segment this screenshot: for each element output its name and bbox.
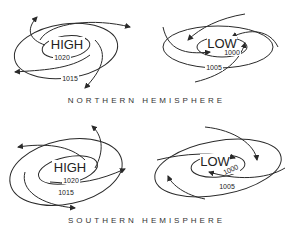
southern-low-wind-arrow: [168, 176, 205, 199]
southern-high-wind-arrow: [18, 145, 85, 160]
southern-high-isobar-label-1020: 1020: [63, 177, 79, 184]
northern-high-system: HIGH 1020 1015: [11, 17, 130, 88]
northern-low-isobar-label-1005: 1005: [206, 64, 222, 71]
southern-hemisphere-caption: SOUTHERN HEMISPHERE: [0, 216, 293, 225]
pressure-systems-diagram: HIGH 1020 1015 LOW 1000 1005 HIGH 1020: [0, 0, 293, 233]
southern-high-label: HIGH: [54, 160, 87, 175]
northern-high-wind-arrow: [85, 40, 102, 88]
northern-low-isobar-label-1000: 1000: [224, 49, 240, 56]
northern-low-wind-arrow: [163, 27, 210, 53]
southern-low-wind-arrow: [209, 168, 285, 178]
northern-high-label: HIGH: [51, 37, 84, 52]
southern-low-isobar-label-1005: 1005: [219, 183, 235, 190]
northern-high-isobar-label-1015: 1015: [62, 75, 78, 82]
northern-low-system: LOW 1000 1005: [163, 14, 278, 82]
southern-high-isobar-label-1015: 1015: [58, 189, 74, 196]
northern-hemisphere-caption: NORTHERN HEMISPHERE: [0, 96, 293, 105]
northern-high-isobar-label-1020: 1020: [54, 54, 70, 61]
southern-high-system: HIGH 1020 1015: [4, 126, 129, 215]
southern-low-system: LOW 1000 1005: [150, 127, 285, 206]
